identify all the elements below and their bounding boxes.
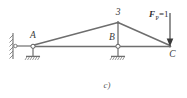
load-arrow-head-icon [167,39,174,47]
node-A-hinge-icon [31,44,35,48]
member-3-C [118,23,170,46]
truss-diagram-canvas: A B 3 C F P =1 c) [0,0,187,98]
load-label-F: F [148,9,155,19]
load-label-equals-one: =1 [159,9,169,19]
wall-hinge-icon [14,44,17,47]
figure-caption: c) [104,80,111,90]
truss-members [33,23,170,47]
member-A-3 [34,23,118,46]
node-label-3: 3 [115,7,121,17]
left-wall-support [10,33,32,59]
truss-figure: A B 3 C F P =1 c) [0,0,187,98]
node-B-ground-hatch-icon [110,57,125,60]
node-label-A: A [29,30,36,40]
node-label-B: B [109,32,115,42]
node-B-hinge-icon [116,44,120,48]
load-label-FP: F P =1 [148,9,169,21]
node-label-C: C [169,49,176,59]
node-3-joint-icon [117,21,119,23]
node-A-ground-hatch-icon [25,57,40,60]
node-3-apex [117,21,119,23]
